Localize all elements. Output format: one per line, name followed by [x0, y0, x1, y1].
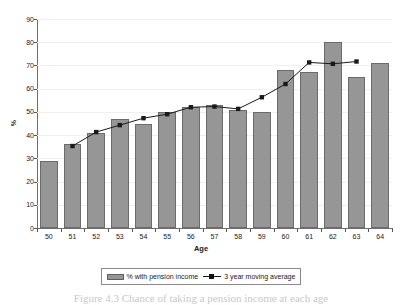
moving-average-line — [73, 62, 357, 147]
y-tick-label: 20 — [14, 178, 34, 185]
y-tick-label: 50 — [14, 108, 34, 115]
y-tick-mark — [34, 89, 37, 90]
y-tick-mark — [34, 205, 37, 206]
x-tick-mark — [61, 229, 62, 232]
line-marker-icon — [203, 273, 221, 280]
x-tick-label: 60 — [275, 233, 297, 241]
x-tick-label: 53 — [109, 233, 131, 241]
x-tick-label: 62 — [322, 233, 344, 241]
chart-figure: % 9080706050403020100 505152535455565758… — [0, 0, 402, 305]
x-tick-mark — [37, 229, 38, 232]
x-tick-mark — [203, 229, 204, 232]
y-tick-label: 60 — [14, 85, 34, 92]
x-tick-mark — [274, 229, 275, 232]
x-tick-label: 51 — [62, 233, 84, 241]
data-point-marker — [283, 82, 287, 86]
data-point-marker — [165, 112, 169, 116]
legend-label-line: 3 year moving average — [224, 273, 295, 280]
x-tick-mark — [84, 229, 85, 232]
figure-caption: Figure 4.3 Chance of taking a pension in… — [0, 292, 402, 304]
x-tick-mark — [321, 229, 322, 232]
data-point-marker — [307, 60, 311, 64]
y-tick-label: 90 — [14, 16, 34, 23]
y-tick-mark — [34, 135, 37, 136]
data-point-marker — [70, 144, 74, 148]
x-axis-ticks: 505152535455565758596061626364 — [37, 229, 393, 245]
y-tick-mark — [34, 65, 37, 66]
y-tick-label: 0 — [14, 225, 34, 232]
x-tick-label: 56 — [180, 233, 202, 241]
x-tick-mark — [226, 229, 227, 232]
legend-item-bar: % with pension income — [107, 273, 199, 280]
data-point-marker — [354, 59, 358, 63]
data-point-marker — [189, 105, 193, 109]
x-tick-label: 57 — [204, 233, 226, 241]
x-tick-mark — [179, 229, 180, 232]
x-tick-mark — [368, 229, 369, 232]
y-tick-mark — [34, 158, 37, 159]
x-tick-label: 54 — [133, 233, 155, 241]
data-point-marker — [331, 62, 335, 66]
plot-panel — [37, 19, 392, 228]
x-tick-mark — [250, 229, 251, 232]
x-tick-mark — [132, 229, 133, 232]
bar-swatch-icon — [107, 274, 124, 280]
y-tick-mark — [34, 112, 37, 113]
x-tick-mark — [345, 229, 346, 232]
y-tick-label: 70 — [14, 62, 34, 69]
x-tick-mark — [297, 229, 298, 232]
data-point-marker — [141, 116, 145, 120]
data-point-marker — [260, 95, 264, 99]
y-tick-label: 30 — [14, 155, 34, 162]
x-tick-label: 55 — [156, 233, 178, 241]
y-tick-mark — [34, 19, 37, 20]
y-tick-label: 40 — [14, 132, 34, 139]
legend-item-line: 3 year moving average — [203, 273, 295, 280]
y-tick-label: 80 — [14, 39, 34, 46]
data-point-marker — [118, 123, 122, 127]
y-tick-mark — [34, 228, 37, 229]
y-axis-ticks: 9080706050403020100 — [12, 0, 34, 262]
x-tick-label: 50 — [38, 233, 60, 241]
y-tick-label: 10 — [14, 201, 34, 208]
y-tick-mark — [34, 42, 37, 43]
x-tick-mark — [108, 229, 109, 232]
data-point-marker — [212, 104, 216, 108]
data-point-marker — [94, 130, 98, 134]
x-tick-mark — [392, 229, 393, 232]
x-tick-label: 59 — [251, 233, 273, 241]
x-tick-label: 52 — [85, 233, 107, 241]
x-tick-label: 64 — [369, 233, 391, 241]
x-tick-label: 58 — [227, 233, 249, 241]
data-point-marker — [236, 107, 240, 111]
x-tick-label: 61 — [298, 233, 320, 241]
chart-plot-area: % 9080706050403020100 505152535455565758… — [0, 0, 402, 262]
x-axis-label: Age — [0, 244, 402, 253]
y-tick-mark — [34, 182, 37, 183]
legend-label-bar: % with pension income — [127, 273, 199, 280]
chart-legend: % with pension income 3 year moving aver… — [101, 268, 301, 285]
x-tick-label: 63 — [346, 233, 368, 241]
moving-average-line-series — [37, 19, 392, 228]
x-tick-mark — [155, 229, 156, 232]
